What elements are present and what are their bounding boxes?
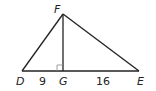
triangle-diagram: F D 9 G 16 E [0, 0, 156, 91]
segment-DF [22, 14, 63, 71]
label-E: E [137, 75, 144, 88]
segment-FE [63, 14, 139, 71]
label-G: G [59, 75, 68, 88]
measure-GE: 16 [96, 75, 110, 88]
right-angle-marker [57, 65, 63, 71]
measure-DG: 9 [39, 75, 46, 88]
label-F: F [54, 3, 61, 16]
label-D: D [16, 75, 24, 88]
